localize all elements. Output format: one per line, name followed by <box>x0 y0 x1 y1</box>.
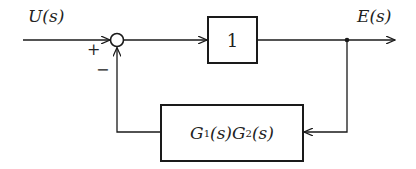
plus-sign: + <box>87 40 100 59</box>
feedback-output-line <box>117 48 161 133</box>
minus-sign: − <box>96 60 109 79</box>
g1-symbol: G <box>190 123 204 143</box>
feedback-return-line <box>304 40 347 132</box>
output-signal-label: E(s) <box>357 6 391 26</box>
feedback-block-label: G1(s)G2(s) <box>161 105 303 161</box>
forward-block-label: 1 <box>208 17 257 63</box>
summing-junction <box>111 34 124 47</box>
forward-block-value: 1 <box>227 30 238 51</box>
g2-symbol: G <box>232 123 246 143</box>
g1-argument: (s) <box>210 123 232 143</box>
input-signal-label: U(s) <box>28 6 64 26</box>
g2-argument: (s) <box>252 123 274 143</box>
